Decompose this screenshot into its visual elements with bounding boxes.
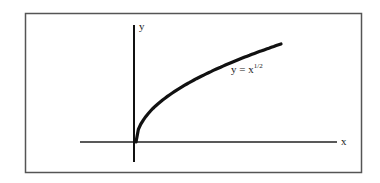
equation-exponent: 1/2 — [254, 62, 263, 70]
y-axis-label: y — [139, 20, 145, 32]
equation-label: y = x1/2 — [231, 62, 263, 75]
chart-canvas — [0, 0, 380, 183]
sqrt-curve — [136, 44, 281, 142]
chart-frame — [26, 14, 362, 173]
equation-base: y = x — [231, 63, 254, 75]
x-axis-label: x — [341, 135, 347, 147]
